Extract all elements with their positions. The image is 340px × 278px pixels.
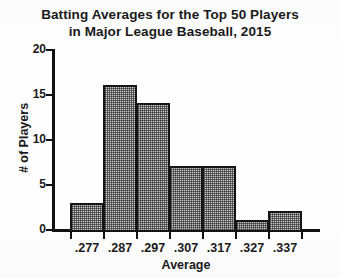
bar-0	[70, 203, 104, 232]
y-tick-10	[46, 139, 53, 141]
y-tick-label-0: 0	[6, 223, 46, 235]
y-tick-0	[46, 229, 53, 231]
y-tick-5	[46, 184, 53, 186]
x-tick-boundary-4	[202, 232, 204, 239]
plot-area: 0 5 10 15 20 .277 .287 .297 .307 .317 .3…	[0, 0, 340, 278]
y-tick-20	[46, 49, 53, 51]
chart-figure: Batting Averages for the Top 50 Players …	[0, 0, 340, 278]
x-tick-boundary-7	[301, 232, 303, 239]
x-tick-boundary-5	[235, 232, 237, 239]
x-tick-label-6: .337	[264, 241, 306, 255]
x-tick-boundary-0	[70, 232, 72, 239]
bar-5	[235, 220, 269, 232]
y-tick-15	[46, 94, 53, 96]
x-axis-title: Average	[52, 258, 320, 272]
bar-1	[103, 85, 137, 232]
bar-4	[202, 166, 236, 232]
x-tick-boundary-2	[136, 232, 138, 239]
x-tick-boundary-1	[103, 232, 105, 239]
bar-2	[136, 103, 170, 232]
y-axis-title: # of Players	[17, 78, 31, 198]
y-tick-label-20: 20	[6, 43, 46, 55]
bar-6	[268, 211, 302, 232]
x-tick-boundary-6	[268, 232, 270, 239]
bar-3	[169, 166, 203, 232]
x-tick-boundary-3	[169, 232, 171, 239]
